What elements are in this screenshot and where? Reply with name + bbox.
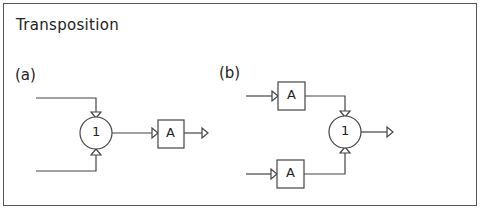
input-line-bottom xyxy=(36,155,96,171)
block-a-label: A xyxy=(166,125,175,140)
block-b-top-label: A xyxy=(287,87,296,102)
arrowhead-icon xyxy=(272,91,278,101)
block-b-bottom-label: A xyxy=(286,165,295,180)
arrowhead-icon xyxy=(91,149,101,155)
arrowhead-icon xyxy=(271,169,277,179)
summing-node-b-label: 1 xyxy=(341,123,349,138)
panel-b-diagram xyxy=(246,82,393,188)
output-arrow-icon xyxy=(387,127,393,137)
block-diagram xyxy=(0,0,481,211)
panel-a-diagram xyxy=(36,98,208,171)
input-line-top xyxy=(36,98,96,112)
output-arrow-icon xyxy=(202,128,208,138)
arrowhead-icon xyxy=(152,128,158,138)
summing-node-a-label: 1 xyxy=(92,124,100,139)
